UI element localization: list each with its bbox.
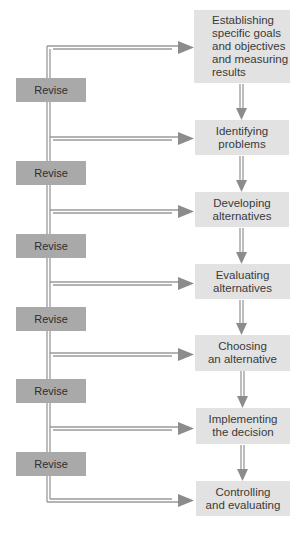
step-choosing-alternative: Choosing an alternative bbox=[195, 335, 290, 371]
step-establishing-goals: Establishing specific goals and objectiv… bbox=[194, 10, 290, 83]
revise-box: Revise bbox=[16, 307, 86, 331]
revise-box: Revise bbox=[16, 379, 86, 403]
step-implementing-decision: Implementing the decision bbox=[196, 408, 290, 444]
step-developing-alternatives: Developing alternatives bbox=[195, 192, 289, 227]
revise-box: Revise bbox=[16, 78, 86, 102]
step-identifying-problems: Identifying problems bbox=[195, 120, 289, 155]
step-evaluating-alternatives: Evaluating alternatives bbox=[195, 264, 290, 299]
revise-box: Revise bbox=[16, 161, 86, 185]
revise-box: Revise bbox=[16, 234, 86, 258]
revise-box: Revise bbox=[16, 452, 86, 476]
step-controlling-evaluating: Controlling and evaluating bbox=[196, 481, 290, 516]
